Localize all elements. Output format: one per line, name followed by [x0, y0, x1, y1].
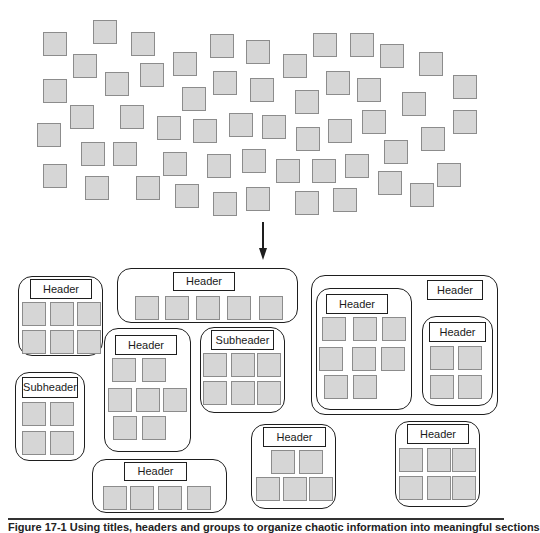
content-item	[136, 176, 160, 200]
header-label: Header	[173, 272, 235, 291]
content-item	[312, 159, 336, 183]
content-item	[246, 40, 270, 64]
grouped-item	[136, 388, 160, 412]
grouped-item	[322, 317, 346, 341]
grouped-item	[103, 486, 127, 510]
content-item	[193, 119, 217, 143]
content-item	[453, 75, 477, 99]
grouped-item	[231, 353, 255, 377]
arrow-down-icon	[259, 248, 267, 260]
content-item	[210, 34, 234, 58]
content-item	[43, 32, 67, 56]
content-item	[93, 20, 117, 44]
content-item	[85, 176, 109, 200]
grouped-item	[257, 381, 281, 405]
content-item	[453, 110, 477, 134]
grouped-item	[257, 353, 281, 377]
content-item	[213, 192, 237, 216]
grouped-item	[203, 381, 227, 405]
content-item	[120, 105, 144, 129]
content-item	[242, 149, 266, 173]
content-item	[380, 44, 404, 68]
grouped-item	[399, 476, 423, 500]
grouped-item	[196, 296, 220, 320]
grouped-item	[22, 431, 46, 455]
header-label: Header	[115, 335, 177, 355]
content-item	[131, 32, 155, 56]
content-item	[173, 52, 197, 76]
grouped-item	[165, 296, 189, 320]
content-item	[410, 183, 434, 207]
grouped-item	[452, 448, 476, 472]
content-item	[163, 152, 187, 176]
content-item	[105, 72, 129, 96]
content-item	[43, 79, 67, 103]
grouped-item	[50, 402, 74, 426]
content-item	[73, 54, 97, 78]
grouped-item	[399, 448, 423, 472]
grouped-item	[382, 317, 406, 341]
content-item	[350, 33, 374, 57]
grouped-item	[50, 330, 74, 354]
content-item	[207, 154, 231, 178]
caption-divider	[8, 518, 504, 520]
content-item	[326, 71, 350, 95]
grouped-item	[309, 477, 333, 501]
header-label: Header	[427, 280, 483, 300]
content-item	[250, 78, 274, 102]
grouped-item	[430, 375, 454, 399]
grouped-item	[130, 486, 154, 510]
content-item	[246, 187, 270, 211]
content-item	[313, 33, 337, 57]
content-item	[113, 142, 137, 166]
content-item	[262, 115, 286, 139]
header-label: Header	[407, 424, 469, 444]
content-item	[283, 54, 307, 78]
grouped-item	[50, 431, 74, 455]
content-item	[421, 127, 445, 151]
content-item	[276, 159, 300, 183]
grouped-item	[112, 358, 136, 382]
grouped-item	[231, 381, 255, 405]
content-item	[419, 52, 443, 76]
content-item	[384, 140, 408, 164]
grouped-item	[77, 330, 101, 354]
grouped-item	[324, 375, 348, 399]
header-label: Header	[326, 294, 388, 314]
grouped-item	[427, 476, 451, 500]
content-item	[70, 105, 94, 129]
header-label: Header	[263, 427, 326, 447]
grouped-item	[458, 346, 482, 370]
grouped-item	[77, 302, 101, 326]
header-label: Header	[429, 322, 486, 342]
grouped-item	[283, 477, 307, 501]
content-item	[345, 154, 369, 178]
content-item	[37, 123, 61, 147]
grouped-item	[163, 388, 187, 412]
header-label: Header	[30, 279, 92, 299]
content-item	[43, 164, 67, 188]
content-item	[362, 110, 386, 134]
content-item	[182, 87, 206, 111]
content-item	[157, 116, 181, 140]
grouped-item	[22, 302, 46, 326]
content-item	[328, 119, 352, 143]
content-item	[175, 184, 199, 208]
subheader-label: Subheader	[211, 330, 274, 350]
grouped-item	[353, 317, 377, 341]
content-item	[333, 188, 357, 212]
content-item	[229, 113, 253, 137]
content-item	[140, 63, 164, 87]
grouped-item	[135, 296, 159, 320]
grouped-item	[203, 353, 227, 377]
grouped-item	[50, 302, 74, 326]
grouped-item	[22, 402, 46, 426]
grouped-item	[142, 416, 166, 440]
grouped-item	[458, 375, 482, 399]
grouped-item	[227, 296, 251, 320]
content-item	[296, 127, 320, 151]
grouped-item	[299, 450, 323, 474]
grouped-item	[187, 486, 211, 510]
grouped-item	[430, 346, 454, 370]
